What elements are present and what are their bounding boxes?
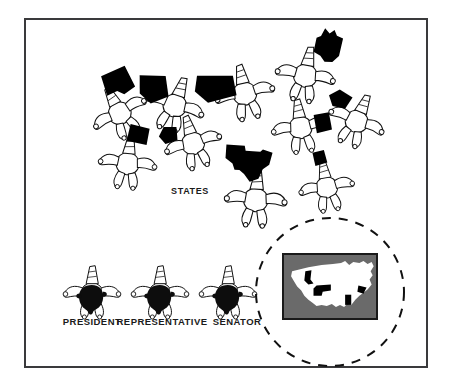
skydiver-state-7 [96, 120, 162, 192]
skydiver-representative [131, 266, 189, 319]
state-highlight-alabama [345, 295, 351, 305]
skydiver-state-10 [292, 146, 358, 217]
skydiver-state-5 [267, 95, 334, 157]
skydiver-state-9 [221, 145, 291, 230]
officials-skydiver-group [63, 266, 257, 319]
label-president: PRESIDENT [63, 316, 121, 327]
label-representative: REPRESENTATIVE [117, 316, 208, 327]
illustration-canvas: STATES PRESIDENT REPRESENTATIVE SENATOR [0, 0, 452, 388]
states-skydiver-group [73, 20, 394, 230]
label-senator: SENATOR [213, 316, 262, 327]
label-states: STATES [171, 186, 209, 196]
vector-artwork [0, 0, 452, 388]
usa-map-inset [256, 218, 404, 366]
skydiver-president [63, 266, 121, 319]
skydiver-state-3 [188, 56, 281, 131]
skydiver-senator [199, 266, 257, 319]
